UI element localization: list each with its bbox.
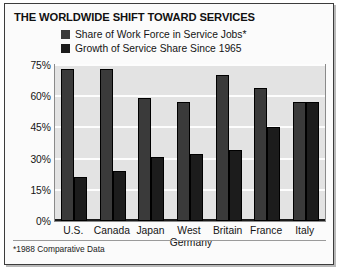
plot-frame [54,64,326,222]
legend-label-growth: Growth of Service Share Since 1965 [75,43,242,54]
bar [100,69,113,221]
bar [151,157,164,221]
chart-footnote: *1988 Comparative Data [13,244,105,254]
bar [138,98,151,221]
x-axis-label: Italy [285,225,324,237]
x-axis-label-line1: Italy [285,225,324,237]
bar-group [254,65,280,221]
footnote-divider [13,240,326,241]
x-axis-label-line1: Britain [208,225,247,237]
bar-group [177,65,203,221]
chart-title: THE WORLDWIDE SHIFT TOWARD SERVICES [14,11,255,23]
legend-label-service-share: Share of Work Force in Service Jobs* [75,29,247,40]
x-axis-label-line1: West [170,225,209,237]
legend-swatch-service-share [61,30,70,39]
bar [254,88,267,221]
bar-group [61,65,87,221]
bar [113,171,126,221]
bar [306,102,319,221]
plot-area [55,65,325,221]
x-axis-label-line1: France [247,225,286,237]
x-axis-label-line1: Canada [93,225,132,237]
y-axis-tick-45: 45% [11,122,51,133]
y-axis-tick-15: 15% [11,184,51,195]
x-axis-label: Canada [93,225,132,237]
x-axis-label: Britain [208,225,247,237]
x-axis-label: U.S. [54,225,93,237]
bar [229,150,242,221]
bar [267,127,280,221]
y-axis-tick-30: 30% [11,153,51,164]
y-axis-tick-75: 75% [11,60,51,71]
bar [177,102,190,221]
x-axis-label-line1: Japan [131,225,170,237]
bar-group [100,65,126,221]
y-axis-tick-60: 60% [11,91,51,102]
legend-swatch-growth [61,44,70,53]
bar [190,154,203,221]
legend-item-growth: Growth of Service Share Since 1965 [61,42,247,55]
bar [74,177,87,221]
bar [216,75,229,221]
x-axis-label: Japan [131,225,170,237]
x-axis-label: France [247,225,286,237]
bar-group [293,65,319,221]
bar [61,69,74,221]
x-axis-label-line2: Germany [170,237,209,249]
bar-group [138,65,164,221]
chart-legend: Share of Work Force in Service Jobs* Gro… [61,28,247,56]
y-axis-tick-0: 0% [11,216,51,227]
chart-figure-panel: THE WORLDWIDE SHIFT TOWARD SERVICES Shar… [4,3,334,265]
bar-group [216,65,242,221]
x-axis-label-line1: U.S. [54,225,93,237]
legend-item-service-share: Share of Work Force in Service Jobs* [61,28,247,41]
x-axis-label: WestGermany [170,225,209,248]
y-axis-labels: 0%15%30%45%60%75% [11,64,51,222]
bar [293,102,306,221]
